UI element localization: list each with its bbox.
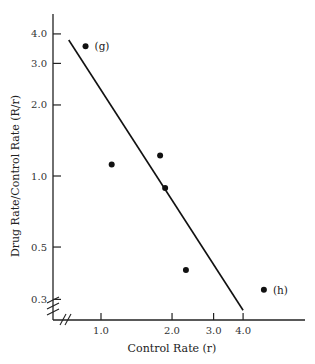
point-annotation: (h) (273, 284, 288, 296)
data-point (157, 153, 163, 159)
y-axis-label: Drug Rate/Control Rate (R/r) (9, 95, 22, 257)
fit-line (69, 40, 243, 310)
x-axis-label: Control Rate (r) (128, 342, 217, 355)
y-tick-label: 3.0 (31, 58, 47, 69)
x-tick-label: 4.0 (235, 325, 251, 336)
data-point (162, 185, 168, 191)
y-tick-label: 4.0 (31, 28, 47, 39)
data-point (261, 287, 267, 293)
x-tick-label: 3.0 (206, 325, 222, 336)
data-point (109, 161, 115, 167)
y-tick-label: 0.5 (31, 242, 47, 253)
y-tick-label: 0.3 (31, 294, 47, 305)
axes (47, 14, 305, 325)
data-point (83, 43, 89, 49)
y-tick-label: 1.0 (31, 171, 47, 182)
point-annotation: (g) (95, 40, 110, 52)
data-point (183, 267, 189, 273)
x-tick-label: 1.0 (93, 325, 109, 336)
chart: 4.03.02.01.00.50.3 1.02.03.04.0 (g)(h) C… (0, 0, 315, 364)
y-tick-label: 2.0 (31, 99, 47, 110)
x-tick-label: 2.0 (164, 325, 180, 336)
